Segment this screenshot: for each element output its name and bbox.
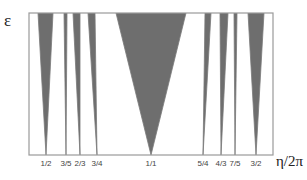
tick-label-7-5: 7/5	[229, 159, 241, 168]
tick-label-2-3: 2/3	[74, 159, 86, 168]
tick-label-4-3: 4/3	[215, 159, 227, 168]
tongue-1-2	[38, 13, 53, 155]
arnold-tongue-diagram: 1/23/52/33/41/15/44/37/53/2 ε η/2π	[0, 0, 307, 180]
tick-label-3-2: 3/2	[250, 159, 262, 168]
tick-label-1-1: 1/1	[145, 159, 157, 168]
x-axis-label: η/2π	[276, 153, 304, 169]
tick-label-3-5: 3/5	[60, 159, 72, 168]
tongue-1-1	[116, 13, 186, 155]
tongue-regions	[38, 13, 264, 155]
tick-labels: 1/23/52/33/41/15/44/37/53/2	[40, 159, 262, 168]
tick-label-1-2: 1/2	[40, 159, 52, 168]
tick-label-5-4: 5/4	[197, 159, 209, 168]
tick-label-3-4: 3/4	[91, 159, 103, 168]
tongue-3-2	[248, 13, 264, 155]
y-axis-label: ε	[4, 11, 11, 30]
